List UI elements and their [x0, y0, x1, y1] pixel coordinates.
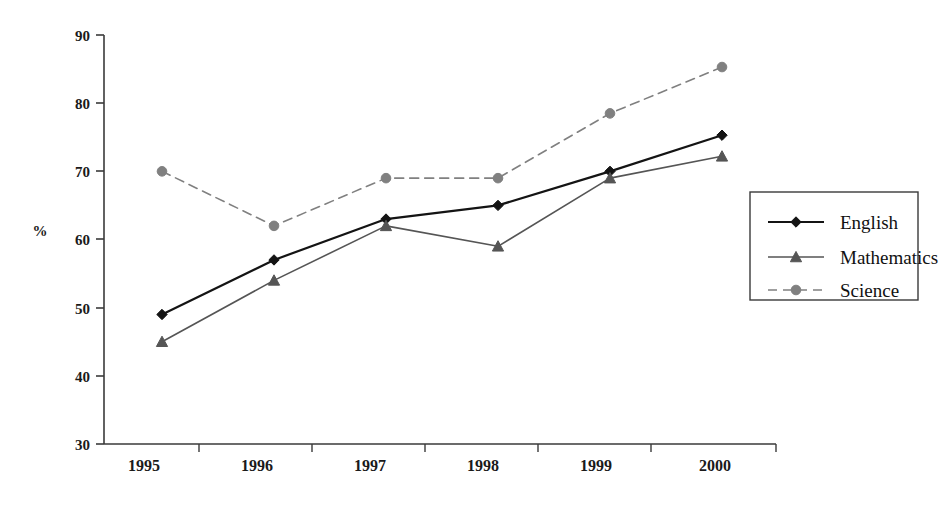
y-tick-label-90: 90	[75, 28, 90, 44]
data-point-science-1997	[381, 173, 391, 183]
data-point-science-1999	[605, 109, 615, 119]
legend-label-mathematics: Mathematics	[840, 247, 938, 268]
y-tick-label-80: 80	[75, 96, 90, 112]
legend-circle-marker	[791, 285, 801, 295]
y-tick-label-60: 60	[75, 232, 90, 248]
line-chart: 90 80 70 60 50 40 30 % 1995 1996 1997 19…	[0, 0, 951, 507]
x-tick-label-2000: 2000	[699, 457, 731, 474]
data-point-science-2000	[717, 62, 727, 72]
y-tick-label-50: 50	[75, 301, 90, 317]
y-tick-label-30: 30	[75, 437, 90, 453]
data-point-science-1996	[269, 221, 279, 231]
x-tick-label-1997: 1997	[354, 457, 386, 474]
x-tick-label-1995: 1995	[128, 457, 160, 474]
chart-page: 90 80 70 60 50 40 30 % 1995 1996 1997 19…	[0, 0, 951, 507]
chart-legend: EnglishMathematicsScience	[750, 192, 938, 301]
data-point-science-1998	[493, 173, 503, 183]
legend-label-science: Science	[840, 280, 899, 301]
x-tick-label-1998: 1998	[467, 457, 499, 474]
x-tick-label-1996: 1996	[241, 457, 273, 474]
x-tick-label-1999: 1999	[580, 457, 612, 474]
legend-label-english: English	[840, 212, 899, 233]
y-tick-label-40: 40	[75, 369, 90, 385]
y-axis-title: %	[33, 223, 48, 239]
data-point-science-1995	[157, 167, 167, 177]
y-tick-label-70: 70	[75, 164, 90, 180]
